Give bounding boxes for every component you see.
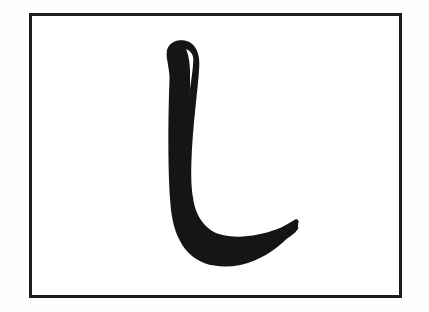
specimen-inner-field [32, 16, 399, 295]
image-canvas: Calligraphic black stroke: a tall vertic… [0, 0, 429, 312]
specimen-border [29, 13, 402, 298]
